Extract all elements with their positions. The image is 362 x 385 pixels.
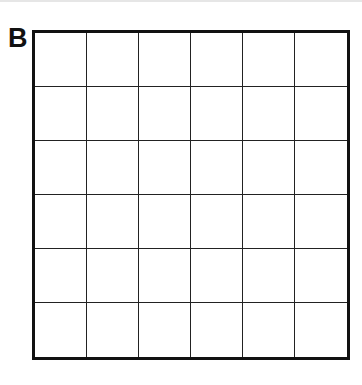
grid-cell — [139, 249, 191, 303]
grid-cell — [139, 195, 191, 249]
grid-cell — [35, 195, 87, 249]
grid-cell — [243, 141, 295, 195]
grid-cell — [191, 303, 243, 357]
grid-cell — [243, 87, 295, 141]
grid-cell — [191, 195, 243, 249]
grid-cell — [295, 303, 347, 357]
grid-cell — [35, 87, 87, 141]
grid-cell — [87, 303, 139, 357]
grid-cell — [243, 33, 295, 87]
figure-label: B — [8, 25, 28, 52]
grid-cell — [191, 141, 243, 195]
grid-cell — [295, 249, 347, 303]
grid-cell — [191, 33, 243, 87]
grid-cell — [295, 87, 347, 141]
grid-cell — [87, 195, 139, 249]
grid-cell — [139, 141, 191, 195]
top-edge-line — [0, 0, 362, 2]
grid-cell — [243, 249, 295, 303]
grid-cell — [35, 33, 87, 87]
grid-cell — [243, 195, 295, 249]
grid-cell — [87, 249, 139, 303]
grid-cell — [139, 33, 191, 87]
grid-cell — [295, 141, 347, 195]
grid-cell — [139, 87, 191, 141]
empty-grid — [32, 30, 350, 360]
grid-cell — [191, 87, 243, 141]
grid-cell — [243, 303, 295, 357]
grid-cell — [191, 249, 243, 303]
grid-cell — [35, 141, 87, 195]
grid-cell — [87, 141, 139, 195]
grid-cell — [35, 249, 87, 303]
grid-cell — [87, 87, 139, 141]
grid-cell — [87, 33, 139, 87]
grid-cell — [295, 195, 347, 249]
grid-cell — [295, 33, 347, 87]
grid-cell — [35, 303, 87, 357]
grid-cell — [139, 303, 191, 357]
